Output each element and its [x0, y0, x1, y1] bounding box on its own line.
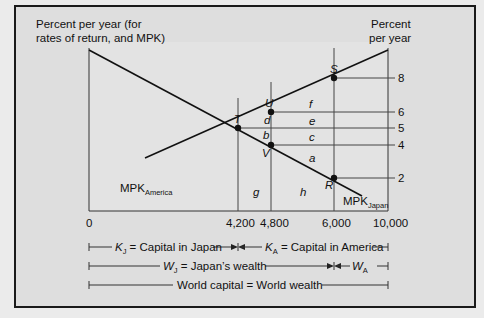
label-V: V: [262, 148, 270, 160]
x-tick-4200: 4,200: [226, 218, 255, 230]
area-h: h: [300, 187, 306, 199]
y-tick-8: 8: [398, 73, 404, 85]
area-f: f: [309, 99, 312, 111]
label-S: S: [330, 64, 338, 76]
right-axis-title-line1: Percent: [371, 19, 411, 31]
label-T: T: [234, 114, 241, 126]
label-U: U: [265, 98, 273, 110]
y-tick-6: 6: [398, 107, 404, 119]
label-mpk-japan: MPKJapan: [343, 196, 388, 210]
area-b: b: [263, 130, 269, 142]
y-tick-2: 2: [398, 173, 404, 185]
area-a: a: [309, 153, 315, 165]
bracket-ka-label: KA = Capital in America: [265, 242, 383, 256]
x-tick-10000: 10,000: [373, 218, 408, 230]
label-mpk-america: MPKAmerica: [120, 183, 172, 197]
point-S: [331, 75, 337, 81]
bracket-world-label: World capital = World wealth: [177, 280, 323, 292]
area-d: d: [264, 115, 270, 127]
bracket-wa-label: WA: [352, 261, 368, 275]
y-tick-5: 5: [398, 123, 404, 135]
y-tick-4: 4: [398, 140, 404, 152]
area-c: c: [309, 132, 315, 144]
left-axis-title-line2: rates of return, and MPK): [36, 33, 165, 45]
label-R: R: [325, 180, 333, 192]
x-tick-0: 0: [86, 218, 92, 230]
bracket-wj-label: WJ = Japan’s wealth: [163, 261, 267, 275]
x-tick-6000: 6,000: [322, 218, 351, 230]
x-tick-4800: 4,800: [260, 218, 289, 230]
left-axis-title-line1: Percent per year (for: [36, 19, 141, 31]
right-axis-title-line2: per year: [369, 33, 411, 45]
area-g: g: [253, 187, 259, 199]
point-T: [235, 125, 241, 131]
bracket-kj-label: KJ = Capital in Japan: [115, 242, 222, 256]
area-e: e: [309, 116, 315, 128]
